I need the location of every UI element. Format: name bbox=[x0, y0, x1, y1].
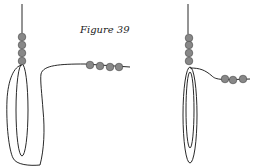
right-diagram bbox=[183, 4, 250, 163]
bead-diagram bbox=[0, 0, 268, 168]
left-vertical-beads bbox=[18, 33, 26, 65]
left-horizontal-beads bbox=[86, 61, 123, 71]
left-diagram bbox=[7, 4, 130, 165]
right-horizontal-beads bbox=[221, 75, 247, 84]
right-vertical-beads bbox=[185, 34, 193, 65]
